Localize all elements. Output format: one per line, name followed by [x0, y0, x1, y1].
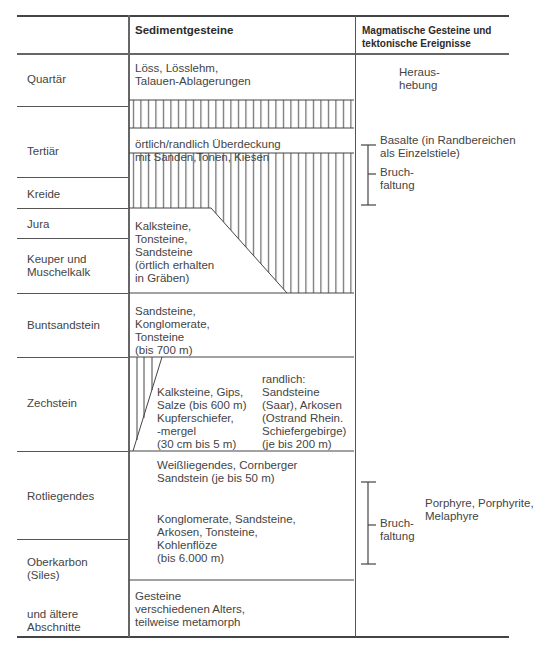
magmatic-basalte: Basalte (in Randbereichen als Einzelstie… [380, 134, 516, 160]
magmatic-bruchfaltung-1: Bruch- faltung [380, 166, 415, 192]
magmatic-herausbehung: Heraus- hebung [399, 66, 440, 92]
magmatic-bruchfaltung-2: Bruch- faltung [380, 517, 415, 543]
magmatic-porphyre: Porphyre, Porphyrite, Melaphyre [425, 497, 534, 523]
tectonic-brackets [0, 0, 552, 654]
